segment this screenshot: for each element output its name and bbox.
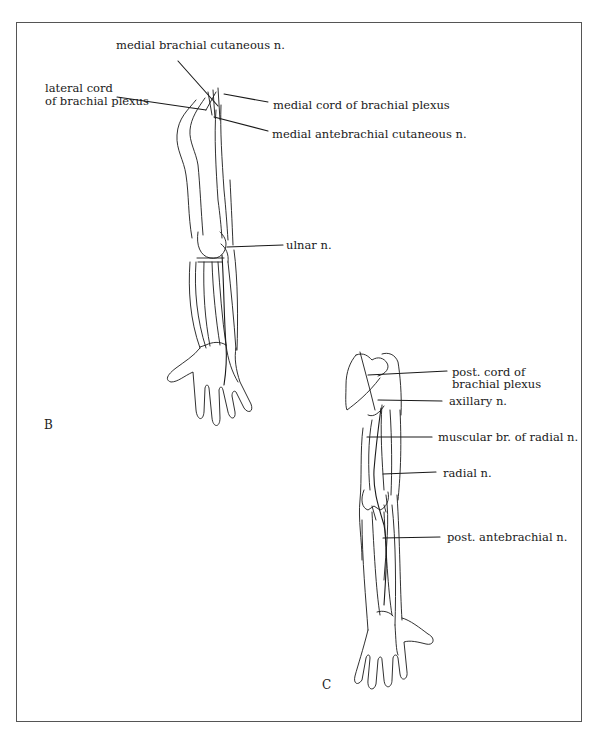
arm-b-drawing [167, 88, 251, 426]
label-radial-n: radial n. [443, 467, 492, 480]
leader-lines-c [367, 371, 447, 538]
label-axillary-n: axillary n. [449, 395, 507, 408]
label-ulnar-n: ulnar n. [286, 239, 332, 252]
panel-letter-b: B [44, 418, 53, 432]
label-medial-cord-of-brachial-plexus: medial cord of brachial plexus [273, 99, 450, 112]
label-medial-brachial-cutaneous-n: medial brachial cutaneous n. [116, 39, 285, 52]
leader-lines-b [117, 61, 283, 247]
panel-letter-c: C [322, 678, 331, 692]
label-muscular-br-of-radial-n: muscular br. of radial n. [438, 431, 578, 444]
arm-c-drawing [346, 352, 433, 689]
label-lateral-cord-line2: of brachial plexus [45, 95, 149, 108]
label-post-antebrachial-n: post. antebrachial n. [447, 531, 567, 544]
label-post-cord-line2: brachial plexus [452, 378, 541, 391]
label-medial-antebrachial-cutaneous-n: medial antebrachial cutaneous n. [272, 128, 467, 141]
